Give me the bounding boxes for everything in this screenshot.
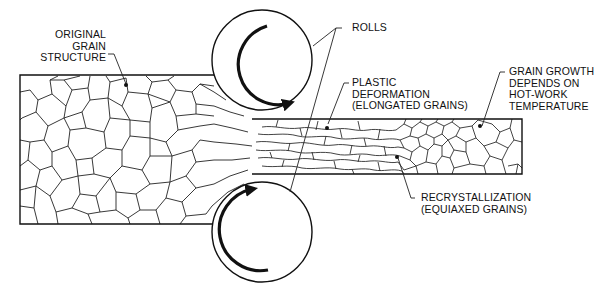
thick-slab bbox=[20, 76, 252, 224]
top-roll bbox=[212, 10, 312, 110]
label-line: HOT-WORK bbox=[509, 89, 594, 101]
label-line: (ELONGATED GRAINS) bbox=[352, 100, 468, 112]
label-line: STRUCTURE bbox=[40, 52, 106, 64]
label-line: ORIGINAL bbox=[40, 29, 106, 41]
label-original-grain-structure: ORIGINAL GRAIN STRUCTURE bbox=[40, 29, 106, 64]
bottom-roll bbox=[212, 182, 312, 282]
label-line: ROLLS bbox=[352, 22, 387, 34]
label-line: PLASTIC bbox=[352, 77, 468, 89]
label-rolls: ROLLS bbox=[352, 22, 387, 34]
label-line: TEMPERATURE bbox=[509, 101, 594, 113]
label-grain-growth: GRAIN GROWTH DEPENDS ON HOT-WORK TEMPERA… bbox=[509, 66, 594, 112]
thin-strip bbox=[256, 119, 522, 174]
label-line: GRAIN GROWTH bbox=[509, 66, 594, 78]
label-recrystallization: RECRYSTALLIZATION (EQUIAXED GRAINS) bbox=[421, 192, 531, 215]
label-plastic-deformation: PLASTIC DEFORMATION (ELONGATED GRAINS) bbox=[352, 77, 468, 112]
label-line: (EQUIAXED GRAINS) bbox=[421, 204, 531, 216]
label-line: RECRYSTALLIZATION bbox=[421, 192, 531, 204]
